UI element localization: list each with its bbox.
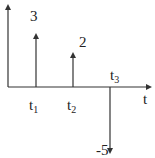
impulse-t3-time-label: t3 <box>110 67 119 85</box>
impulse-t1-time-label: t1 <box>29 97 38 115</box>
time-axis-label: t <box>143 91 148 107</box>
impulse-t2-time-label: t2 <box>67 97 76 115</box>
impulse-diagram: t 3 t1 2 t2 t3 -5 <box>0 0 155 158</box>
impulse-t3-amplitude: -5 <box>96 142 109 158</box>
impulse-t2-amplitude: 2 <box>79 34 87 50</box>
impulse-t1-amplitude: 3 <box>30 8 38 24</box>
